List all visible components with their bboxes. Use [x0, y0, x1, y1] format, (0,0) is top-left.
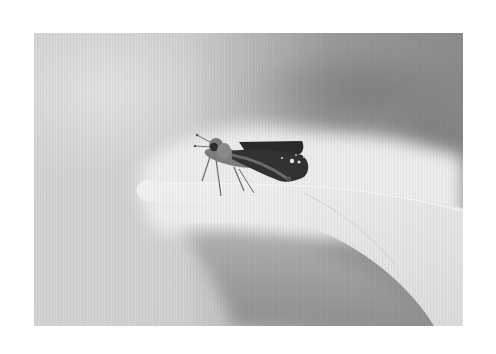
photograph: [34, 33, 463, 326]
butterfly-photo: [34, 33, 463, 326]
